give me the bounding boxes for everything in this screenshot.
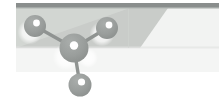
atom-upper-right-highlight: [106, 22, 113, 29]
atom-center-highlight: [70, 41, 78, 49]
atom-lower-center: [69, 74, 92, 97]
atom-center: [60, 34, 89, 63]
atom-upper-left: [24, 15, 46, 37]
banner-graphic: [0, 0, 219, 107]
molecule-header-banner: [0, 0, 219, 107]
atom-upper-right: [96, 17, 118, 39]
top-accent-bar: [16, 3, 219, 8]
atom-lower-center-highlight: [78, 78, 85, 85]
atom-upper-right-sphere: [96, 17, 118, 39]
banner-bands: [16, 3, 219, 72]
band-seam: [16, 47, 219, 49]
atom-upper-left-highlight: [33, 20, 40, 27]
top-accent-bar-shadow: [16, 7, 219, 8]
lower-band: [16, 48, 219, 72]
band-vertical-seam: [128, 8, 129, 48]
